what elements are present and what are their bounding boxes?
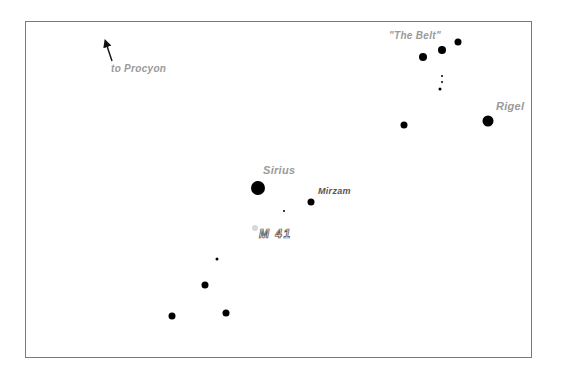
star-belt-star-2 bbox=[438, 46, 446, 54]
star-mirzam bbox=[308, 199, 315, 206]
star-sword-star-1 bbox=[441, 75, 443, 77]
star-sword-star-3 bbox=[439, 88, 442, 91]
rigel-label: Rigel bbox=[496, 100, 524, 112]
star-faint-star bbox=[283, 210, 285, 212]
star-sword-star-2 bbox=[441, 81, 443, 83]
m41-label: M 41 bbox=[259, 227, 292, 241]
star-cma-star-3 bbox=[223, 310, 230, 317]
star-rigel bbox=[483, 116, 494, 127]
star-belt-star-3 bbox=[455, 39, 462, 46]
belt-label: "The Belt" bbox=[389, 30, 441, 41]
star-sirius bbox=[251, 181, 265, 195]
star-saiph bbox=[401, 122, 408, 129]
procyon-label: to Procyon bbox=[111, 63, 166, 74]
sirius-label: Sirius bbox=[263, 164, 295, 176]
star-cma-star-1 bbox=[216, 258, 219, 261]
cluster-m41 bbox=[252, 225, 258, 231]
procyon-arrow-icon bbox=[0, 0, 562, 374]
star-belt-star-1 bbox=[419, 53, 427, 61]
star-cma-star-4 bbox=[169, 313, 176, 320]
star-cma-star-2 bbox=[202, 282, 209, 289]
mirzam-label: Mirzam bbox=[318, 186, 351, 196]
